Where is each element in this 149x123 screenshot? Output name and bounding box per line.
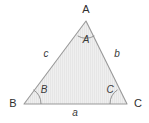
triangle-figure xyxy=(0,0,149,123)
angle-label-b: B xyxy=(41,85,48,95)
angle-label-c: C xyxy=(106,85,113,95)
vertex-label-c: C xyxy=(134,98,142,109)
angle-label-a: A xyxy=(83,35,90,45)
triangle-diagram: A B C A B C a b c xyxy=(0,0,149,123)
side-label-a: a xyxy=(72,108,78,118)
side-label-b: b xyxy=(114,49,120,59)
vertex-label-b: B xyxy=(9,98,16,109)
vertex-label-a: A xyxy=(82,4,89,15)
side-label-c: c xyxy=(44,49,49,59)
